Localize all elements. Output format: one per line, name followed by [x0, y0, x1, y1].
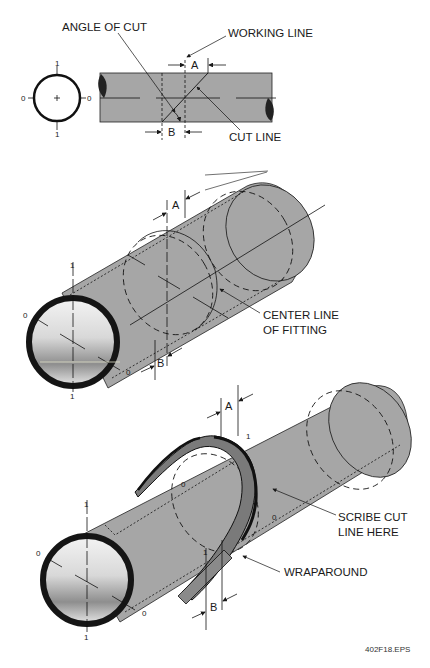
- mark-pipe-bottom-right: 0: [142, 609, 147, 618]
- mark-top: 1: [55, 59, 60, 68]
- dimension-b-top: B: [145, 126, 202, 138]
- mark-wrap-bottom-1: 1: [203, 548, 208, 557]
- mark-wrap-right-0: 0: [272, 513, 277, 522]
- pipe-cut-diagram: 1 1 0 0 A: [0, 0, 430, 668]
- center-line-label: CENTER LINE: [263, 309, 339, 321]
- dimension-a-top: A: [168, 58, 226, 73]
- dim-a-label: A: [172, 199, 180, 211]
- mark-left: 0: [23, 311, 28, 320]
- of-fitting-label: OF FITTING: [263, 324, 327, 336]
- mark-wrap-top: 1: [246, 432, 251, 441]
- dim-b-label: B: [210, 601, 217, 613]
- bottom-view: 1 0 1 0 1 0 0 1 A B SCRIBE CUT LINE HERE…: [36, 368, 428, 642]
- mark-bottom: 1: [70, 392, 75, 401]
- dim-b-label: B: [168, 126, 175, 138]
- scribe-cut-label: SCRIBE CUT: [338, 511, 408, 523]
- middle-view: 1 0 1 0 A B CENTER LINE OF FITTING: [23, 169, 339, 401]
- mark-left: 0: [21, 94, 26, 103]
- mark-pipe-bottom: 1: [84, 633, 89, 642]
- dim-b-label: B: [157, 357, 164, 369]
- pipe-side-view: [98, 60, 276, 140]
- mark-bottom-right: 0: [126, 368, 131, 377]
- end-view-circle: 1 1 0 0: [21, 59, 92, 139]
- mark-pipe-left: 0: [36, 549, 41, 558]
- dim-a-label: A: [191, 59, 199, 71]
- line-here-label: LINE HERE: [338, 526, 399, 538]
- mark-bottom: 1: [55, 130, 60, 139]
- dim-a-label: A: [225, 400, 233, 412]
- figure-id: 402F18.EPS: [365, 645, 410, 654]
- mark-top: 1: [70, 261, 75, 270]
- wraparound-label: WRAPAROUND: [284, 566, 367, 578]
- mark-pipe-top: 1: [84, 500, 89, 509]
- mark-right: 0: [87, 94, 92, 103]
- angle-of-cut-label: ANGLE OF CUT: [62, 21, 147, 33]
- cut-line-label: CUT LINE: [229, 131, 282, 143]
- top-view: 1 1 0 0 A: [21, 21, 313, 143]
- mark-wrap-inner-0: 0: [181, 480, 186, 489]
- working-line-label: WORKING LINE: [228, 27, 313, 39]
